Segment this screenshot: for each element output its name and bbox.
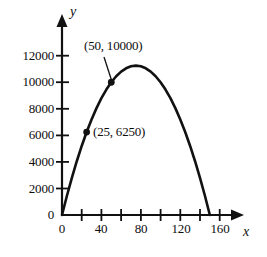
y-axis-arrowhead xyxy=(57,14,68,27)
x-tick-label-80: 80 xyxy=(129,221,153,237)
x-axis-label: x xyxy=(243,224,249,240)
y-tick-label-12000: 12000 xyxy=(0,48,54,64)
x-tick-label-0: 0 xyxy=(50,221,74,237)
y-tick-label-2000: 2000 xyxy=(0,181,54,197)
annotation-50-10000: (50, 10000) xyxy=(84,38,142,54)
y-tick-label-4000: 4000 xyxy=(0,154,54,170)
y-tick-label-6000: 6000 xyxy=(0,127,54,143)
x-axis-arrowhead xyxy=(231,210,244,221)
x-tick-label-40: 40 xyxy=(89,221,113,237)
y-tick-label-8000: 8000 xyxy=(0,101,54,117)
x-tick-label-120: 120 xyxy=(167,221,195,237)
parabola-curve xyxy=(62,66,210,215)
y-tick-label-0: 0 xyxy=(0,207,54,223)
data-point-marker-50-10000 xyxy=(108,79,115,86)
y-axis-label: y xyxy=(70,4,76,20)
annotation-leader-line xyxy=(104,57,111,80)
x-tick-label-160: 160 xyxy=(206,221,234,237)
data-point-marker-25-6250 xyxy=(83,129,90,136)
chart-figure: 12000 10000 8000 6000 4000 2000 0 0 40 8… xyxy=(0,0,267,257)
y-tick-label-10000: 10000 xyxy=(0,74,54,90)
annotation-25-6250: (25, 6250) xyxy=(93,124,145,140)
